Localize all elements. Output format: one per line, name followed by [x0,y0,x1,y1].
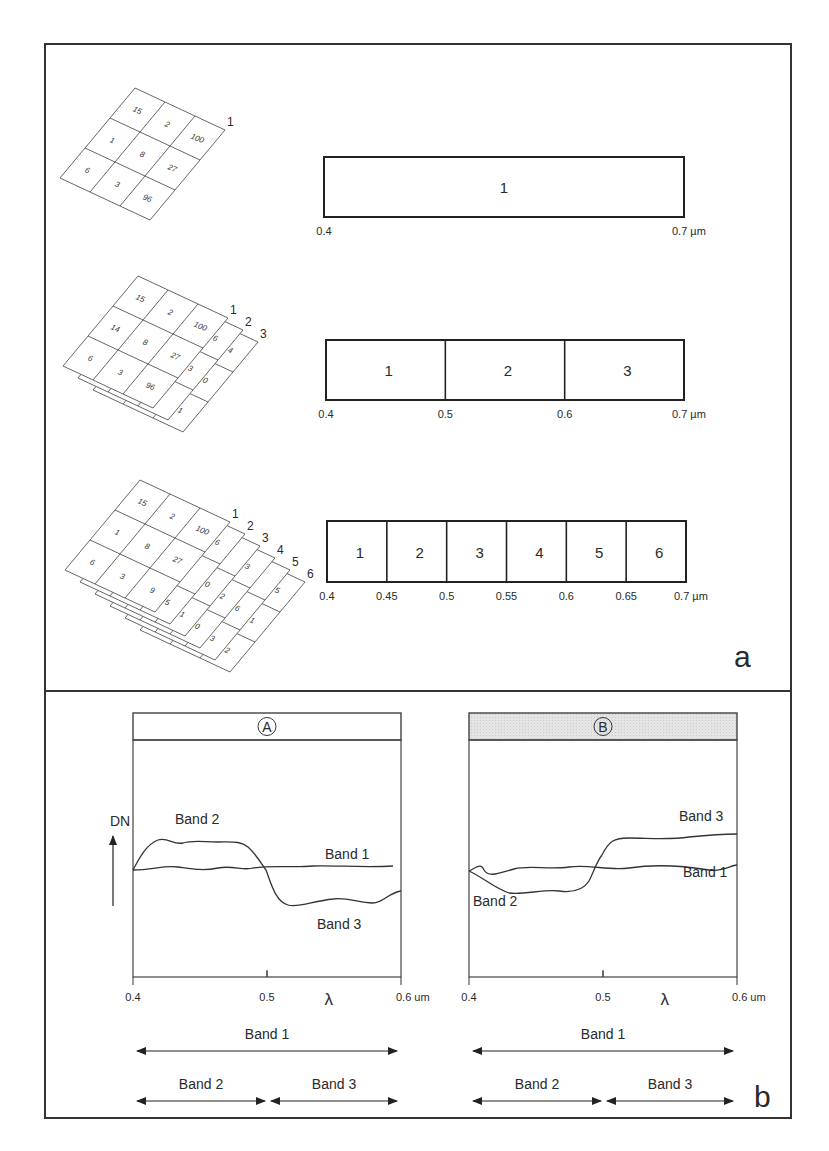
spectral-chart-A: ABand 2Band 1Band 30.40.50.6 umλBand 1Ba… [125,713,429,1101]
curve-label: Band 1 [683,864,728,880]
range-label: Band 1 [245,1026,290,1042]
range-label: Band 3 [312,1076,357,1092]
curve-label: Band 3 [679,808,724,824]
wavelength-tick-label: 0.7 µm [672,225,706,237]
wavelength-tick-label: 0.5 [438,408,453,420]
wavelength-tick-label: 0.6 [559,590,574,602]
band-cell-label: 3 [623,362,631,379]
x-tick-label: 0.5 [259,991,274,1003]
image-layer-1: 152100182763961 [60,88,234,220]
layer-number-label: 3 [260,327,267,341]
spectral-chart-B: BBand 3Band 1Band 20.40.50.6 umλBand 1Ba… [461,713,765,1101]
wavelength-tick-label: 0.7 µm [674,590,708,602]
wavelength-tick-label: 0.6 [557,408,572,420]
spectral-curve-band3 [602,834,737,855]
curve-label: Band 2 [175,811,220,827]
dn-axis-label: DN [110,813,130,829]
layer-number-label: 2 [245,315,252,329]
layer-number-label: 5 [292,555,299,569]
layer-number-label: 3 [262,531,269,545]
wavelength-strip: 10.40.7 µm [316,157,706,237]
spectral-curve-band2 [133,839,266,870]
band-cell-label: 1 [500,179,508,196]
layer-number-label: 6 [307,567,314,581]
wavelength-tick-label: 0.65 [615,590,636,602]
x-tick-label: 0.6 um [396,991,430,1003]
dn-axis: DN [110,813,130,906]
wavelength-tick-label: 0.55 [496,590,517,602]
range-label: Band 3 [648,1076,693,1092]
band-cell-label: 2 [416,544,424,561]
band-cell-label: 1 [384,362,392,379]
band-cell-label: 4 [535,544,543,561]
panel-a: 15210018276396110.40.7 µm401363215210014… [60,88,708,672]
figure-canvas: 15210018276396110.40.7 µm401363215210014… [0,0,829,1151]
x-tick-label: 0.6 um [732,991,766,1003]
range-label: Band 2 [179,1076,224,1092]
curve-label: Band 2 [473,893,518,909]
chart-id-label: A [262,719,272,735]
x-tick-label: 0.4 [125,991,140,1003]
lambda-axis-symbol: λ [324,990,333,1009]
band-cell-label: 3 [475,544,483,561]
band-row-six-band: 51266353204013652152100182763911234560.4… [65,480,708,672]
wavelength-tick-label: 0.4 [318,408,333,420]
plot-area [469,740,737,977]
lambda-axis-symbol: λ [660,990,669,1009]
wavelength-tick-label: 0.45 [376,590,397,602]
wavelength-tick-label: 0.4 [319,590,334,602]
x-tick-label: 0.5 [595,991,610,1003]
panel-b-label: b [754,1080,771,1113]
layer-number-label: 1 [232,507,239,521]
chart-id-label: B [598,719,607,735]
x-tick-label: 0.4 [461,991,476,1003]
curve-label: Band 3 [317,916,362,932]
wavelength-strip: 1234560.40.450.50.550.60.650.7 µm [319,521,708,602]
band-ranges: Band 1Band 2Band 3 [137,1026,397,1101]
band-cell-label: 1 [356,544,364,561]
band-row-single-band: 15210018276396110.40.7 µm [60,88,706,237]
band-row-three-band: 401363215210014827639611230.40.50.60.7 µ… [63,276,706,432]
band-cell-label: 6 [655,544,663,561]
range-label: Band 2 [515,1076,560,1092]
wavelength-strip: 1230.40.50.60.7 µm [318,340,706,420]
layer-number-label: 4 [277,543,284,557]
band-cell-label: 5 [595,544,603,561]
wavelength-tick-label: 0.4 [316,225,331,237]
panel-b: ABand 2Band 1Band 30.40.50.6 umλBand 1Ba… [110,713,766,1101]
wavelength-tick-label: 0.7 µm [672,408,706,420]
layer-number-label: 1 [227,115,234,129]
band-ranges: Band 1Band 2Band 3 [473,1026,733,1101]
spectral-curve-band3 [266,870,401,906]
band-cell-label: 2 [504,362,512,379]
range-label: Band 1 [581,1026,626,1042]
curve-label: Band 1 [325,846,370,862]
layer-number-label: 1 [230,303,237,317]
panel-a-label: a [734,640,751,673]
layer-number-label: 2 [247,519,254,533]
wavelength-tick-label: 0.5 [439,590,454,602]
